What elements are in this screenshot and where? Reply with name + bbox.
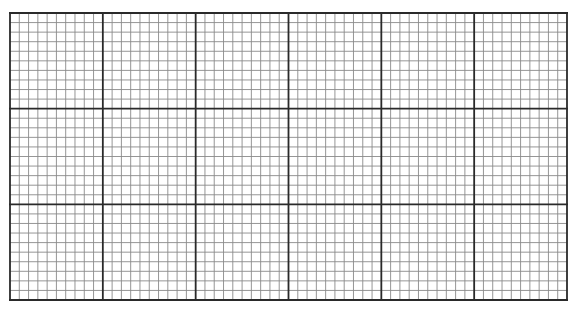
graph-paper-grid (9, 12, 568, 301)
grid-lines (9, 12, 568, 301)
